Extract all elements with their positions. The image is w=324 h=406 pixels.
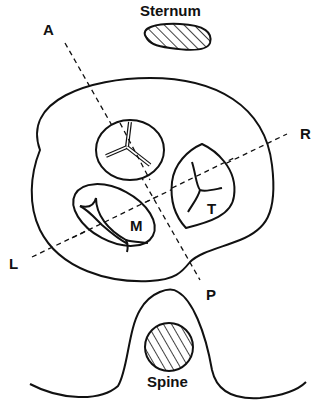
mitral-valve-label: M [130,218,143,233]
sternum-shape [145,24,211,50]
heart-cross-section-diagram [0,0,324,406]
axis-left-label: L [9,256,18,271]
mitral-valve [63,171,165,258]
axis-anterior-label: A [43,22,54,37]
spine-label: Spine [147,374,188,389]
heart-outline [32,78,274,281]
axis-posterior-label: P [206,287,216,302]
aortic-valve [96,120,164,180]
tricuspid-valve-label: T [207,201,216,216]
axis-right-label: R [300,126,311,141]
spine-vertebra [145,323,193,371]
sternum-label: Sternum [140,3,201,18]
tricuspid-valve [172,144,236,228]
